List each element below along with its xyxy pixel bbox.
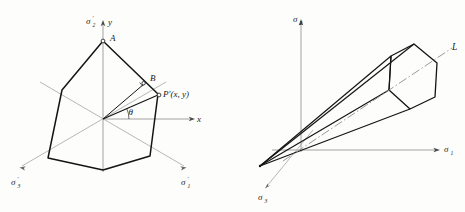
label-sigma1-prime-mark: ′ (187, 176, 189, 182)
label-sigma2-base: σ (293, 14, 298, 24)
point-p-marker (157, 93, 161, 97)
label-angle-theta: θ (129, 107, 134, 117)
label-sigma2: σ 2 (293, 14, 303, 26)
label-y-axis: y (107, 17, 112, 27)
label-sigma1-prime-base: σ (181, 177, 186, 187)
label-vertex-a: A (109, 33, 116, 43)
segment-ob (103, 84, 144, 119)
stress-surface-figure: σ 2 ′ y A B P′(x, y) θ x σ 1 ′ σ 3 ′ (0, 0, 465, 212)
label-sigma2-prime-mark: ′ (92, 15, 94, 21)
label-sigma3-prime-sub: 3 (17, 183, 21, 189)
label-sigma3-base: σ (258, 192, 263, 202)
label-hydrostatic-axis-l: L (451, 42, 457, 52)
label-sigma1-prime-sub: 1 (188, 183, 191, 189)
label-sigma2-sub: 2 (300, 20, 303, 26)
right-panel-group: σ 2 σ 1 σ 3 L (258, 14, 457, 204)
label-sigma3-prime: σ 3 ′ (11, 176, 21, 190)
label-sigma1-prime: σ 1 ′ (181, 176, 191, 190)
label-sigma2-prime: σ 2 ′ (86, 15, 96, 29)
left-panel-group: σ 2 ′ y A B P′(x, y) θ x σ 1 ′ σ 3 ′ (11, 15, 201, 190)
label-sigma1-sub: 1 (451, 150, 454, 156)
label-sigma2-prime-sub: 2 (93, 22, 96, 28)
vertex-a-marker (101, 39, 105, 43)
label-sigma2-prime-base: σ (86, 16, 91, 26)
label-sigma3-prime-base: σ (11, 177, 16, 187)
label-sigma1: σ 1 (444, 144, 454, 156)
prism-apex-marker (259, 165, 261, 167)
prism-cap-fold-edges (389, 56, 391, 90)
prism-end-face (389, 44, 437, 109)
label-point-b: B (150, 73, 156, 83)
label-sigma3-sub: 3 (264, 198, 268, 204)
label-x-axis: x (196, 114, 201, 124)
hydrostatic-axis-line (283, 48, 452, 161)
label-sigma3: σ 3 (258, 192, 268, 204)
figure-canvas: σ 2 ′ y A B P′(x, y) θ x σ 1 ′ σ 3 ′ (0, 0, 465, 212)
point-b-marker (142, 82, 145, 85)
label-sigma1-base: σ (444, 144, 449, 154)
x-axis (103, 117, 195, 122)
label-sigma3-prime-mark: ′ (17, 176, 19, 182)
label-point-p: P′(x, y) (162, 89, 189, 99)
